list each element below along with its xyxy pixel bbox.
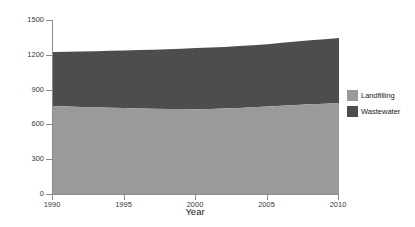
y-tick-label: 300 [14, 155, 44, 163]
x-axis-title: Year [52, 206, 338, 217]
area-landfilling [53, 103, 339, 194]
stacked-area-series [53, 20, 339, 194]
legend-item-landfilling[interactable]: Landfilling [347, 88, 413, 103]
legend-item-wastewater[interactable]: Wastewater [347, 104, 413, 119]
y-tick-label: 1500 [14, 16, 44, 24]
y-tick-label: 900 [14, 86, 44, 94]
plot-area [52, 20, 339, 195]
y-tick-label: 1200 [14, 51, 44, 59]
y-tick-label: 600 [14, 120, 44, 128]
plot-surface [53, 20, 339, 194]
chart-legend: LandfillingWastewater [347, 88, 413, 120]
y-tick-label: 0 [14, 190, 44, 198]
emissions-area-chart: Emissions (Mt CO2 eq) 030060090012001500… [0, 0, 415, 227]
legend-label: Wastewater [361, 107, 400, 116]
legend-swatch-icon [347, 90, 358, 101]
legend-swatch-icon [347, 106, 358, 117]
legend-label: Landfilling [361, 91, 395, 100]
area-wastewater [53, 38, 339, 109]
